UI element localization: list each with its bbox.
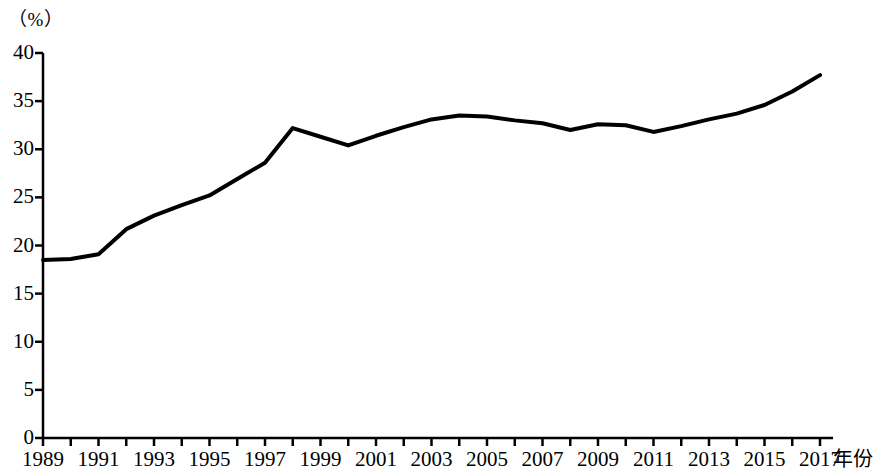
axes <box>43 53 833 438</box>
y-tick-label: 30 <box>0 138 34 159</box>
x-tick-label: 2015 <box>735 449 795 470</box>
y-tick-label: 25 <box>0 186 34 207</box>
x-tick-label: 1999 <box>291 449 351 470</box>
x-axis-title: 年份 <box>833 449 873 470</box>
data-series-line <box>43 75 820 260</box>
x-tick-label: 2005 <box>457 449 517 470</box>
y-tick-label: 5 <box>0 379 34 400</box>
x-tick-label: 2011 <box>624 449 684 470</box>
y-tick-label: 20 <box>0 235 34 256</box>
x-tick-label: 1991 <box>69 449 129 470</box>
x-tick-label: 2001 <box>346 449 406 470</box>
y-tick-label: 40 <box>0 42 34 63</box>
x-tick-label: 2013 <box>679 449 739 470</box>
line-chart: （%） 0510152025303540 1989199119931995199… <box>0 0 883 476</box>
x-tick-label: 1993 <box>124 449 184 470</box>
y-tick-label: 10 <box>0 331 34 352</box>
y-tick-label: 0 <box>0 427 34 448</box>
x-tick-label: 1997 <box>235 449 295 470</box>
y-tick-label: 15 <box>0 283 34 304</box>
x-tick-label: 2007 <box>513 449 573 470</box>
x-tick-label: 1989 <box>13 449 73 470</box>
x-tick-label: 2003 <box>402 449 462 470</box>
plot-area <box>0 0 883 476</box>
x-tick-label: 2009 <box>568 449 628 470</box>
x-tick-label: 1995 <box>180 449 240 470</box>
y-tick-label: 35 <box>0 90 34 111</box>
